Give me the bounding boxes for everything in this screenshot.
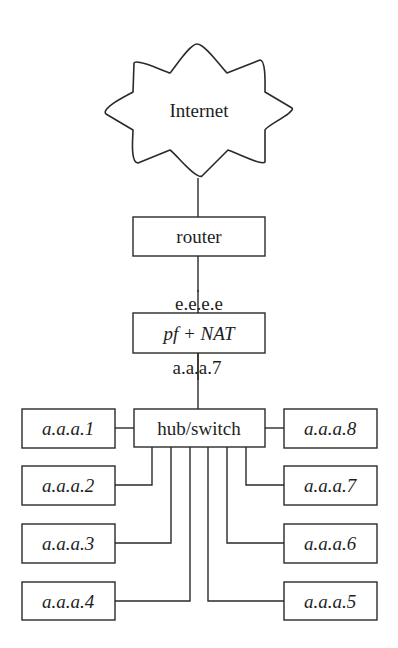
router-label: router <box>176 226 222 247</box>
host-label: a.a.a.7 <box>304 475 358 496</box>
wire-host-3 <box>115 447 171 543</box>
wire-host-7 <box>246 447 284 485</box>
router-node: router <box>133 217 265 256</box>
firewall-node: e.e.e.e pf + NAT a.a.a.7 <box>133 292 265 378</box>
hosts-left: a.a.a.1 a.a.a.2 a.a.a.3 a.a.a.4 <box>22 409 115 620</box>
host-label: a.a.a.5 <box>304 591 356 612</box>
external-ip-label: e.e.e.e <box>175 293 223 314</box>
host-label: a.a.a.4 <box>42 591 95 612</box>
switch-node: hub/switch <box>134 409 265 447</box>
internet-cloud: Internet <box>105 44 292 176</box>
network-diagram: Internet router e.e.e.e pf + NAT a.a.a.7… <box>0 0 398 648</box>
cloud-label: Internet <box>169 100 229 121</box>
host-label: a.a.a.1 <box>42 418 94 439</box>
host-label: a.a.a.8 <box>304 418 357 439</box>
host-label: a.a.a.6 <box>304 533 357 554</box>
firewall-label: pf + NAT <box>161 323 236 344</box>
wire-host-2 <box>115 447 152 485</box>
internal-ip-label: a.a.a.7 <box>172 357 221 378</box>
hosts-right: a.a.a.8 a.a.a.7 a.a.a.6 a.a.a.5 <box>284 409 377 620</box>
host-label: a.a.a.2 <box>42 475 95 496</box>
host-connectors <box>115 428 284 601</box>
wire-host-6 <box>227 447 284 543</box>
host-label: a.a.a.3 <box>42 533 94 554</box>
switch-label: hub/switch <box>157 418 241 439</box>
